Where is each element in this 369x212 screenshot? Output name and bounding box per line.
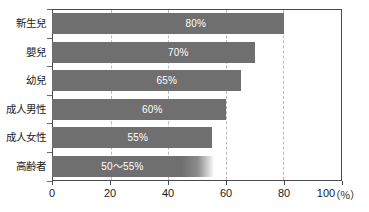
x-axis-tick-0 bbox=[52, 181, 53, 185]
bar-row-adult-female: 55% bbox=[52, 123, 342, 152]
bar-adult-male[interactable] bbox=[52, 99, 226, 120]
bar-value-newborn: 80% bbox=[185, 13, 206, 34]
horizontal-bar-chart: 新生兒 嬰兒 幼兒 成人男性 成人女性 高齢者 80% 70% 65% bbox=[0, 0, 369, 212]
bar-newborn[interactable] bbox=[52, 13, 284, 34]
y-axis-label-3: 成人男性 bbox=[6, 95, 46, 124]
x-axis-label-40: 40 bbox=[162, 187, 174, 199]
bar-toddler[interactable] bbox=[52, 70, 241, 91]
bar-infant[interactable] bbox=[52, 42, 255, 63]
y-axis-labels: 新生兒 嬰兒 幼兒 成人男性 成人女性 高齢者 bbox=[0, 9, 50, 181]
y-axis-label-2: 幼兒 bbox=[26, 66, 46, 95]
x-axis-label-20: 20 bbox=[104, 187, 116, 199]
x-axis-label-0: 0 bbox=[49, 187, 55, 199]
x-axis-tick-60 bbox=[226, 181, 227, 185]
y-axis-label-4: 成人女性 bbox=[6, 123, 46, 152]
bar-row-infant: 70% bbox=[52, 38, 342, 67]
y-axis-label-1: 嬰兒 bbox=[26, 38, 46, 67]
y-axis-label-5: 高齢者 bbox=[16, 152, 46, 181]
x-axis-label-80: 80 bbox=[278, 187, 290, 199]
x-axis-tick-100 bbox=[342, 181, 343, 185]
bar-value-elderly: 50〜55% bbox=[101, 156, 143, 177]
bar-row-elderly: 50〜55% bbox=[52, 152, 342, 181]
x-axis-tick-80 bbox=[284, 181, 285, 185]
bar-row-toddler: 65% bbox=[52, 66, 342, 95]
bar-row-newborn: 80% bbox=[52, 9, 342, 38]
x-axis-tick-40 bbox=[168, 181, 169, 185]
bar-row-adult-male: 60% bbox=[52, 95, 342, 124]
x-axis-label-60: 60 bbox=[220, 187, 232, 199]
y-axis-label-0: 新生兒 bbox=[16, 9, 46, 38]
x-axis-unit-label: （％） bbox=[330, 187, 360, 202]
bar-value-infant: 70% bbox=[168, 42, 189, 63]
bar-series: 80% 70% 65% 60% 55% 50〜55% bbox=[52, 9, 342, 181]
bar-value-adult-male: 60% bbox=[142, 99, 163, 120]
x-axis-tick-20 bbox=[110, 181, 111, 185]
bar-value-toddler: 65% bbox=[156, 70, 177, 91]
bar-value-adult-female: 55% bbox=[127, 127, 148, 148]
